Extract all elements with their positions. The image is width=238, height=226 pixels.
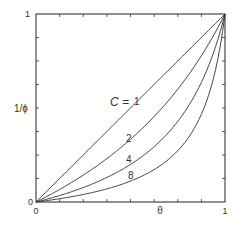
curve-label-c1: 1 [134, 96, 140, 107]
y-tick-label-bottom: 0 [28, 197, 33, 207]
curve-label-c4: 4 [126, 154, 132, 165]
x-tick-label-right: 1 [222, 206, 227, 216]
y-axis-label: 1/ϕ [14, 103, 28, 114]
curve-label-c8: 8 [128, 170, 134, 181]
x-tick-label-left: 0 [33, 206, 38, 216]
curve-family-label: C = [110, 95, 129, 109]
x-axis-label: θ [157, 205, 163, 216]
chart: 1 0 0 1 1/ϕ θ C = 1 2 4 8 [0, 0, 238, 226]
curve-label-c2: 2 [126, 133, 132, 144]
y-tick-label-top: 1 [25, 9, 30, 19]
